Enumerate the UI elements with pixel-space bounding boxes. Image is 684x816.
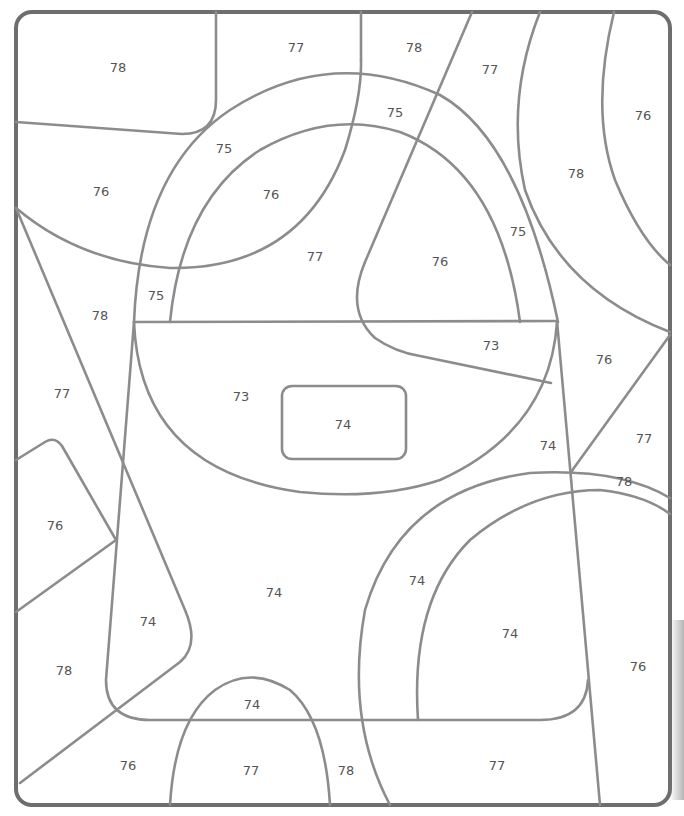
region-number: 78 xyxy=(406,40,423,55)
region-number: 78 xyxy=(92,308,109,323)
region-number: 77 xyxy=(636,431,653,446)
region-number: 75 xyxy=(148,288,165,303)
region-border xyxy=(134,321,557,322)
region-number: 74 xyxy=(335,417,352,432)
region-number: 78 xyxy=(110,60,127,75)
region-number: 76 xyxy=(263,187,280,202)
region-number: 77 xyxy=(243,763,260,778)
region-number: 76 xyxy=(630,659,647,674)
region-number: 75 xyxy=(510,224,527,239)
region-number: 78 xyxy=(338,763,355,778)
region-number: 77 xyxy=(489,758,506,773)
region-number: 78 xyxy=(568,166,585,181)
region-border xyxy=(518,12,670,332)
region-border xyxy=(134,73,558,322)
region-number: 73 xyxy=(233,389,250,404)
region-number: 77 xyxy=(307,249,324,264)
region-number: 77 xyxy=(482,62,499,77)
region-number: 76 xyxy=(93,184,110,199)
region-border xyxy=(16,208,191,783)
region-border xyxy=(557,321,600,805)
region-number: 76 xyxy=(47,518,64,533)
region-number: 76 xyxy=(120,758,137,773)
region-border xyxy=(417,490,670,720)
region-border xyxy=(106,322,588,720)
region-number: 74 xyxy=(140,614,157,629)
region-number: 74 xyxy=(409,573,426,588)
sheet-frame xyxy=(16,12,670,805)
region-number: 74 xyxy=(502,626,519,641)
region-number: 78 xyxy=(616,474,633,489)
region-number: 74 xyxy=(540,438,557,453)
region-number: 78 xyxy=(56,663,73,678)
region-number: 76 xyxy=(596,352,613,367)
region-number: 77 xyxy=(288,40,305,55)
region-number: 77 xyxy=(54,386,71,401)
region-number: 74 xyxy=(266,585,283,600)
region-number: 76 xyxy=(635,108,652,123)
color-by-number-drawing xyxy=(0,0,684,816)
region-number: 73 xyxy=(483,338,500,353)
region-border xyxy=(16,440,116,612)
region-number: 75 xyxy=(216,141,233,156)
region-border xyxy=(602,12,670,265)
region-number: 76 xyxy=(432,254,449,269)
region-number: 74 xyxy=(244,697,261,712)
region-number: 75 xyxy=(387,105,404,120)
region-border xyxy=(571,335,670,472)
page-edge-shadow xyxy=(670,620,684,800)
